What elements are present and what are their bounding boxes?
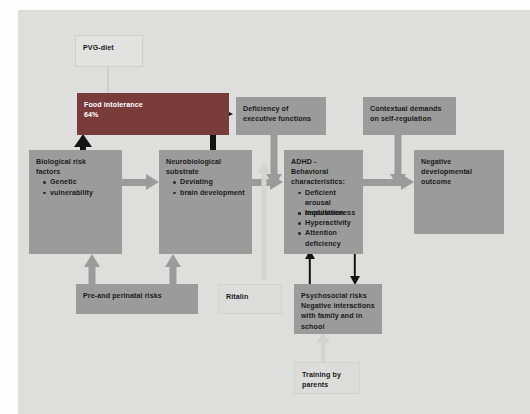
arrow-perinatal-to-neurobiological bbox=[163, 254, 183, 286]
diagram-canvas: PVG-diet Food intolerance 64% Deficiency… bbox=[18, 10, 530, 414]
node-biological-bullets: Genetic vulnerability bbox=[36, 177, 115, 187]
list-item: Genetic bbox=[44, 177, 115, 187]
arrow-biological-risk-to-neurobiological bbox=[122, 174, 160, 190]
list-item: Impulsiveness bbox=[299, 208, 356, 218]
node-food-intolerance[interactable]: Food intolerance 64% bbox=[77, 93, 229, 135]
node-contextual-line2: on self-regulation bbox=[370, 114, 449, 124]
list-item: Hyperactivity bbox=[299, 218, 356, 228]
node-adhd-behavioral-characteristics[interactable]: ADHD - Behavioral characteristics: Defic… bbox=[284, 150, 363, 254]
node-adhd-line3: characteristics: bbox=[291, 177, 356, 187]
node-perinatal-label: Pre-and perinatal risks bbox=[83, 291, 191, 301]
diagram-screenshot: PVG-diet Food intolerance 64% Deficiency… bbox=[0, 0, 530, 414]
node-adhd-bullets: Deficient arousal modulation Impulsivene… bbox=[291, 188, 356, 249]
node-ritalin-label: Ritalin bbox=[226, 292, 274, 302]
node-psychosocial-line3: with family and in bbox=[301, 311, 375, 321]
node-psychosocial-risks[interactable]: Psychosocial risks Negative interactions… bbox=[294, 284, 382, 334]
arrow-adhd-to-outcome bbox=[363, 174, 415, 190]
node-adhd-line2: Behavioral bbox=[291, 167, 356, 177]
arrow-training-to-psychosocial bbox=[315, 332, 331, 366]
node-adhd-line1: ADHD - bbox=[291, 157, 356, 167]
node-training-line1: Training by bbox=[302, 370, 352, 380]
node-food-intolerance-value: 64% bbox=[84, 110, 222, 120]
arrow-perinatal-to-biological-risk bbox=[82, 254, 102, 286]
node-deficiency-line2: executive functions bbox=[243, 114, 319, 124]
node-pvg-diet[interactable]: PVG-diet bbox=[75, 35, 143, 67]
node-neuro-line1: Neurobiological bbox=[166, 157, 245, 167]
node-psychosocial-line2: Negative interactions bbox=[301, 301, 375, 311]
arrow-adhd-to-psychosocial bbox=[348, 250, 362, 286]
node-ritalin[interactable]: Ritalin bbox=[218, 284, 282, 314]
node-deficiency-executive-functions[interactable]: Deficiency of executive functions bbox=[236, 97, 326, 135]
node-training-by-parents[interactable]: Training by parents bbox=[294, 362, 360, 394]
node-training-line2: parents bbox=[302, 380, 352, 390]
list-item: Attention deficiency bbox=[299, 228, 356, 248]
node-neuro-bullets: Deviating brain development bbox=[166, 177, 245, 187]
node-biological-risk-factors[interactable]: Biological risk factors Genetic vulnerab… bbox=[29, 150, 122, 254]
arrow-ritalin-to-adhd bbox=[256, 162, 272, 280]
list-item: Deviating bbox=[174, 177, 245, 187]
node-food-intolerance-title: Food intolerance bbox=[84, 100, 222, 110]
node-neuro-line2: substrate bbox=[166, 167, 245, 177]
node-pre-and-perinatal-risks[interactable]: Pre-and perinatal risks bbox=[76, 284, 198, 314]
node-pvg-diet-label: PVG-diet bbox=[83, 43, 135, 53]
node-neurobiological-substrate[interactable]: Neurobiological substrate Deviating brai… bbox=[159, 150, 252, 254]
node-contextual-demands[interactable]: Contextual demands on self-regulation bbox=[363, 97, 456, 135]
node-deficiency-line1: Deficiency of bbox=[243, 104, 319, 114]
node-outcome-line2: developmental bbox=[421, 167, 497, 177]
node-outcome-line3: outcome bbox=[421, 177, 497, 187]
arrow-psychosocial-to-adhd bbox=[303, 250, 317, 286]
node-contextual-line1: Contextual demands bbox=[370, 104, 449, 114]
node-outcome-line1: Negative bbox=[421, 157, 497, 167]
node-negative-developmental-outcome[interactable]: Negative developmental outcome bbox=[414, 150, 504, 234]
node-biological-line2: factors bbox=[36, 167, 115, 177]
node-psychosocial-line1: Psychosocial risks bbox=[301, 291, 375, 301]
node-biological-line1: Biological risk bbox=[36, 157, 115, 167]
node-psychosocial-line4: school bbox=[301, 322, 375, 332]
list-item: Deficient arousal bbox=[299, 188, 356, 208]
